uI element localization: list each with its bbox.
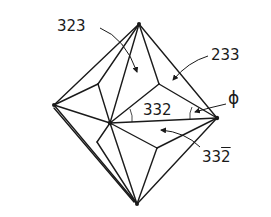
label-face-233: 233 (211, 48, 240, 63)
crystal-octahedron-diagram: 323 233 332 ϕ 332 (0, 0, 271, 217)
label-face-332-bar-barred-digit: 2 (221, 148, 231, 166)
outline-edges (54, 24, 217, 204)
inner-edges (54, 24, 217, 204)
label-face-323: 323 (57, 19, 86, 34)
vertices (52, 22, 219, 206)
label-face-332-bar-digits: 33 (202, 148, 221, 166)
label-face-332-bar: 332 (202, 150, 231, 165)
crystal-drawing (0, 0, 271, 217)
label-face-332: 332 (143, 103, 172, 118)
label-angle-phi: ϕ (228, 90, 239, 107)
